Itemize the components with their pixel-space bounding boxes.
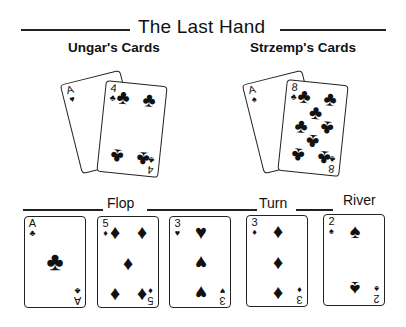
club-icon: ♣ <box>112 86 134 108</box>
diamond-icon: ♦ <box>132 222 152 242</box>
card-corner-index: A♥ <box>64 84 78 106</box>
flop-rule-left <box>23 209 103 211</box>
heart-icon: ♥ <box>67 94 78 105</box>
flop-card-ace-clubs: A♣ ♣ A♣ <box>24 216 86 308</box>
diamond-icon: ♦ <box>268 221 288 241</box>
card-corner-index: 3♥ <box>218 286 227 306</box>
title-rule-right <box>280 29 386 31</box>
river-card-two-spades: 2♠ ♠ ♠ 2♠ <box>323 214 385 306</box>
card-corner-index: 3♥ <box>173 218 182 238</box>
club-icon: ♣ <box>138 89 160 111</box>
card-corner-index: A♠ <box>246 84 260 106</box>
club-icon: ♣ <box>106 146 128 168</box>
club-icon: ♣ <box>287 145 309 167</box>
title-rule-left <box>21 29 130 31</box>
diamond-icon: ♦ <box>105 283 125 303</box>
player-strzemp-label: Strzemp's Cards <box>250 40 356 55</box>
club-icon: ♣ <box>28 229 37 238</box>
card-corner-index: A♣ <box>28 218 37 238</box>
diamond-icon: ♦ <box>105 222 125 242</box>
card-corner-index: 2♠ <box>327 216 336 236</box>
ungar-card-four-clubs: 4♣ ♣ ♣ ♣ ♣ 4♣ <box>96 80 167 178</box>
card-corner-index: 4♣ <box>145 155 156 176</box>
club-icon: ♣ <box>42 248 68 274</box>
turn-label: Turn <box>259 195 287 211</box>
turn-card-three-diamonds: 3♦ ♦ ♦ ♦ 3♦ <box>246 215 308 307</box>
diamond-icon: ♦ <box>268 282 288 302</box>
spade-icon: ♠ <box>345 221 365 241</box>
flop-card-five-diamonds: 5♦ ♦ ♦ ♦ ♦ ♦ 5♦ <box>97 216 159 308</box>
heart-icon: ♥ <box>191 253 211 273</box>
heart-icon: ♥ <box>173 229 182 238</box>
diamond-icon: ♦ <box>268 252 288 272</box>
strzemp-card-eight-clubs: 8♣ ♣ ♣ ♣ ♣ ♣ ♣ ♣ ♣ 8♣ <box>277 79 348 177</box>
flop-card-three-hearts: 3♥ ♥ ♥ ♥ 3♥ <box>169 216 231 308</box>
diamond-icon: ♦ <box>118 253 138 273</box>
turn-rule <box>296 209 333 211</box>
flop-label: Flop <box>107 195 134 211</box>
spade-icon: ♠ <box>345 279 365 299</box>
card-corner-index: A♣ <box>73 286 82 306</box>
spade-icon: ♠ <box>327 227 336 236</box>
card-corner-index: 3♦ <box>295 285 304 305</box>
flop-rule-right <box>147 209 257 211</box>
card-corner-index: 5♦ <box>146 286 155 306</box>
card-corner-index: 2♠ <box>372 284 381 304</box>
player-ungar-label: Ungar's Cards <box>68 40 160 55</box>
card-corner-index: 8♣ <box>326 154 337 175</box>
card-corner-index: 3♦ <box>250 217 259 237</box>
diamond-icon: ♦ <box>250 228 259 237</box>
heart-icon: ♥ <box>191 222 211 242</box>
heart-icon: ♥ <box>191 283 211 303</box>
page-title: The Last Hand <box>138 16 265 38</box>
spade-icon: ♠ <box>249 94 260 105</box>
river-label: River <box>343 192 376 208</box>
